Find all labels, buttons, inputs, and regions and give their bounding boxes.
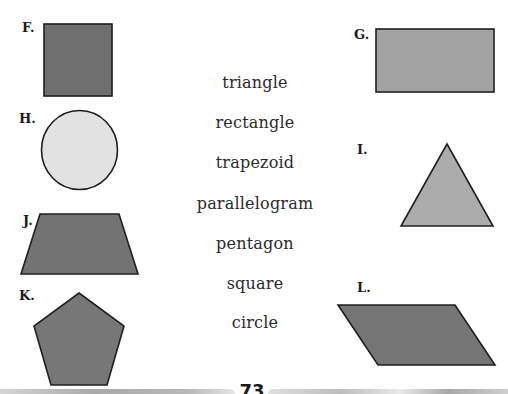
word-list-item: pentagon — [180, 234, 330, 253]
footer-bar-left — [0, 389, 235, 394]
word-list-item: triangle — [180, 73, 330, 92]
shape-label-l: L. — [357, 280, 371, 295]
word-list-item: parallelogram — [180, 194, 330, 213]
rectangle-shape-g — [375, 28, 495, 94]
footer-bar-right — [268, 389, 508, 394]
trapezoid-shape-j — [20, 213, 140, 275]
pentagon-shape-k — [33, 292, 125, 388]
circle-shape-h — [40, 109, 120, 191]
word-list-item: rectangle — [180, 113, 330, 132]
shape-label-h: H. — [19, 111, 36, 126]
shape-label-i: I. — [357, 142, 368, 157]
triangle-shape-i — [400, 143, 494, 227]
word-list-item: circle — [180, 313, 330, 332]
square-shape-f — [43, 23, 113, 97]
word-list-item: square — [180, 274, 330, 293]
shape-label-f: F. — [22, 20, 34, 35]
page-number: 73 — [235, 382, 269, 394]
shape-label-g: G. — [354, 27, 369, 42]
parallelogram-shape-l — [337, 304, 497, 366]
word-list-item: trapezoid — [180, 153, 330, 172]
